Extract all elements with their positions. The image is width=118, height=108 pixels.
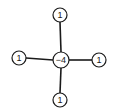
node-right-label: 1 [96, 55, 101, 65]
edge-center-bottom [60, 68, 61, 93]
edge-center-left [26, 58, 53, 60]
node-center-label: −4 [56, 55, 66, 65]
stencil-diagram: 1 1 1 1 −4 [0, 0, 118, 108]
node-top: 1 [53, 8, 67, 22]
node-center: −4 [53, 52, 69, 68]
edge-center-top [60, 22, 61, 52]
node-bottom-label: 1 [57, 95, 62, 105]
node-top-label: 1 [57, 10, 62, 20]
node-right: 1 [92, 53, 106, 67]
node-bottom: 1 [53, 93, 67, 107]
node-left: 1 [12, 51, 26, 65]
node-left-label: 1 [16, 53, 21, 63]
